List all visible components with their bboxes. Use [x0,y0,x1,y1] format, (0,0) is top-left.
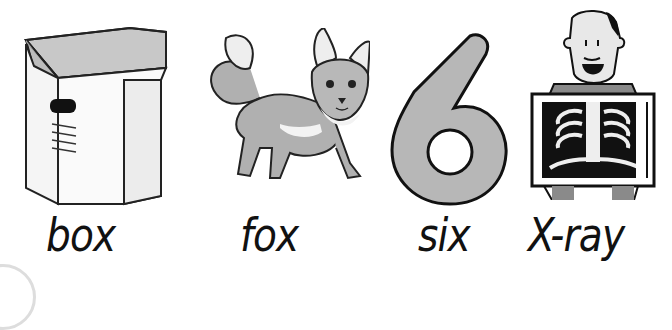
item-x-ray: X-ray [520,0,672,290]
item-six: six [380,0,510,290]
item-fox: fox [190,0,370,290]
word-label: X-ray [528,208,624,262]
word-label: fox [240,208,298,262]
word-label: box [46,208,115,262]
word-label: six [418,208,470,262]
number-six-icon [388,30,508,206]
fox-icon [190,28,370,198]
item-box: box [0,0,170,290]
box-icon [20,24,170,206]
x-ray-man-icon [528,8,658,200]
